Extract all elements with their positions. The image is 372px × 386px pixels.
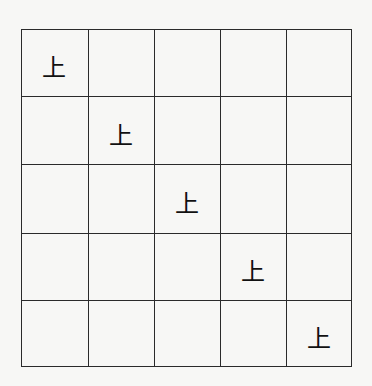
grid-cell-r2-c1 [21, 96, 88, 164]
cell-character: 上 [307, 327, 331, 351]
grid-cell-r2-c4 [220, 96, 286, 164]
grid-cell-r1-c4 [220, 29, 286, 96]
character-grid: 上 上 上 上 上 [21, 29, 352, 367]
grid-cell-r4-c1 [21, 233, 88, 300]
grid-cell-r5-c1 [21, 300, 88, 367]
grid-cell-r5-c3 [154, 300, 220, 367]
grid-cell-r3-c4 [220, 164, 286, 233]
grid-cell-r2-c2: 上 [88, 96, 154, 164]
grid-cell-r4-c3 [154, 233, 220, 300]
grid-cell-r4-c5 [286, 233, 352, 300]
cell-character: 上 [175, 192, 199, 216]
grid-cell-r5-c4 [220, 300, 286, 367]
grid-cell-r2-c3 [154, 96, 220, 164]
grid-cell-r3-c3: 上 [154, 164, 220, 233]
grid-cell-r1-c1: 上 [21, 29, 88, 96]
cell-character: 上 [109, 124, 133, 148]
grid-cell-r1-c3 [154, 29, 220, 96]
grid-cell-r3-c1 [21, 164, 88, 233]
grid-cell-r5-c2 [88, 300, 154, 367]
grid-cell-r3-c2 [88, 164, 154, 233]
cell-character: 上 [42, 56, 66, 80]
grid-cell-r5-c5: 上 [286, 300, 352, 367]
grid-cell-r2-c5 [286, 96, 352, 164]
grid-cell-r1-c5 [286, 29, 352, 96]
grid-cell-r4-c4: 上 [220, 233, 286, 300]
grid-cell-r3-c5 [286, 164, 352, 233]
grid-cell-r1-c2 [88, 29, 154, 96]
grid-cell-r4-c2 [88, 233, 154, 300]
cell-character: 上 [241, 260, 265, 284]
